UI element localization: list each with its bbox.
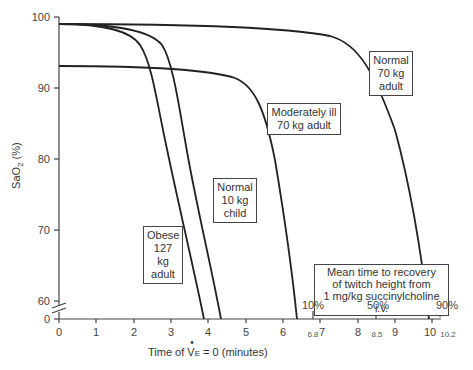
svg-text:8.5: 8.5: [371, 330, 383, 339]
svg-text:9: 9: [392, 326, 398, 338]
curve-normal-10kg-child: [59, 24, 221, 319]
svg-text:70: 70: [38, 224, 50, 236]
svg-text:90: 90: [38, 82, 50, 94]
label-obese-127kg-adult: Obese 127 kg adult: [143, 226, 183, 284]
svg-text:7: 7: [319, 326, 325, 338]
x-axis-title: Time of •VE = 0 (minutes): [148, 346, 268, 358]
svg-text:6.8: 6.8: [307, 330, 319, 339]
svg-text:60: 60: [38, 295, 50, 307]
svg-text:6: 6: [280, 326, 286, 338]
svg-text:80: 80: [38, 153, 50, 165]
svg-text:8: 8: [355, 326, 361, 338]
pct-50-label: 50%: [367, 299, 389, 311]
label-normal-10kg-child: Normal 10 kg child: [213, 178, 257, 223]
svg-text:2: 2: [131, 326, 137, 338]
y-tick-labels: 100 90 80 70 60 0: [32, 11, 50, 325]
label-moderately-ill-70kg-adult: Moderately ill 70 kg adult: [267, 103, 341, 135]
pct-90-label: 90%: [436, 299, 458, 311]
pct-10-label: 10%: [302, 299, 324, 311]
svg-text:100: 100: [32, 11, 50, 23]
svg-text:1: 1: [93, 326, 99, 338]
svg-text:10.2: 10.2: [440, 330, 456, 339]
svg-text:5: 5: [243, 326, 249, 338]
y-axis-title: SaO2 (%): [10, 142, 25, 189]
svg-text:0: 0: [44, 313, 50, 325]
svg-text:4: 4: [205, 326, 211, 338]
svg-text:10: 10: [424, 326, 436, 338]
label-normal-70kg-adult: Normal 70 kg adult: [369, 51, 413, 96]
svg-text:3: 3: [168, 326, 174, 338]
svg-text:0: 0: [56, 326, 62, 338]
x-tick-labels: 0 1 2 3 4 5 6 7 8 9 10 6.8 8.5 10.2: [56, 326, 456, 339]
